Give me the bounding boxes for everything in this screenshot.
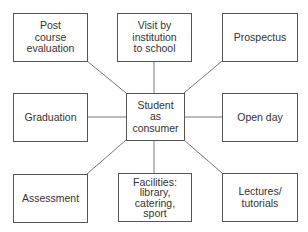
node-assessment: Assessment	[13, 174, 88, 223]
node-label: Facilities: library, catering, sport	[133, 177, 177, 219]
node-label: Visit by institution to school	[132, 20, 176, 55]
node-label: Prospectus	[234, 32, 287, 44]
node-label: Open day	[237, 112, 283, 124]
node-facilities: Facilities: library, catering, sport	[118, 173, 192, 222]
node-lectures-tutorials: Lectures/ tutorials	[222, 173, 298, 222]
node-label: Graduation	[25, 112, 77, 124]
center-label: Student as consumer	[132, 100, 178, 135]
node-prospectus: Prospectus	[222, 13, 298, 62]
node-visit-by-institution: Visit by institution to school	[117, 13, 192, 62]
node-graduation: Graduation	[13, 93, 88, 142]
node-label: Post course evaluation	[27, 20, 75, 55]
node-post-course-evaluation: Post course evaluation	[13, 13, 88, 62]
node-center-student-as-consumer: Student as consumer	[126, 93, 185, 141]
node-open-day: Open day	[222, 93, 298, 142]
node-label: Lectures/ tutorials	[238, 186, 281, 209]
node-label: Assessment	[22, 193, 79, 205]
